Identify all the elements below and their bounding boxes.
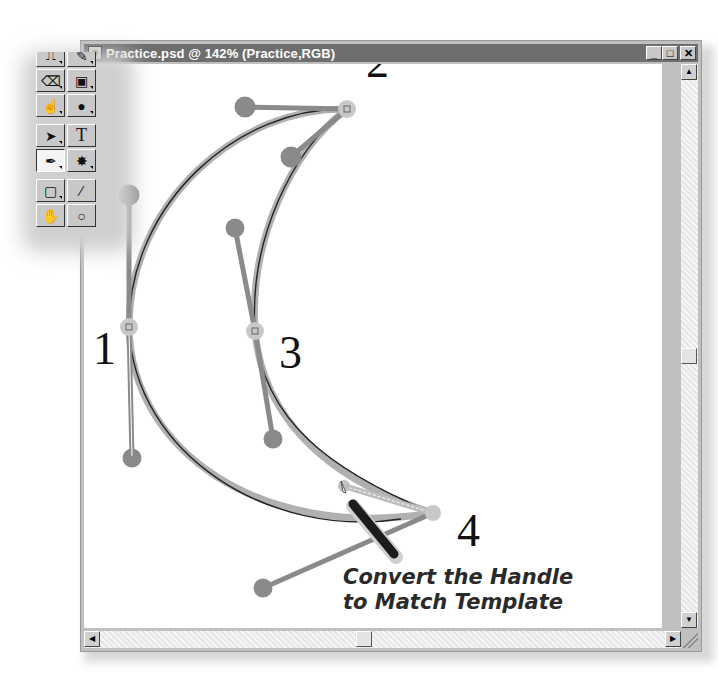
- instruction-caption: Convert the Handle to Match Template: [343, 565, 573, 615]
- caption-line-2: to Match Template: [343, 590, 573, 615]
- gradient-icon: ▣: [75, 73, 88, 89]
- arrow-icon: ➤: [45, 128, 57, 144]
- pen-tool[interactable]: ✒: [36, 149, 65, 172]
- minimize-button[interactable]: _: [646, 46, 662, 60]
- dodge-icon: ●: [77, 98, 85, 114]
- type-icon: T: [76, 125, 87, 146]
- shape-tool[interactable]: ✸: [67, 149, 96, 172]
- point-label-4: 4: [457, 508, 480, 554]
- eyedropper-icon: ⁄: [80, 183, 82, 199]
- template-curve-inner-top: [254, 109, 347, 331]
- gradient-tool[interactable]: ▣: [67, 69, 96, 92]
- scroll-left-button[interactable]: ◀: [84, 631, 100, 647]
- resize-grip[interactable]: [681, 631, 698, 648]
- vertical-scrollbar[interactable]: ▲ ▼: [681, 64, 698, 628]
- dodge-tool[interactable]: ●: [67, 94, 96, 117]
- type-tool[interactable]: T: [67, 124, 96, 147]
- scroll-down-button[interactable]: ▼: [681, 612, 697, 628]
- toolbox: ⎍ ✎ ⌫ ▣ ☝ ● ➤ T ✒ ✸ ▢ ⁄ ✋ ○: [32, 52, 102, 252]
- path-illustration: [84, 64, 662, 628]
- window-title: Practice.psd @ 142% (Practice,RGB): [106, 46, 335, 61]
- eraser-icon: ⌫: [41, 73, 61, 89]
- caption-line-1: Convert the Handle: [343, 565, 573, 590]
- hand-icon: ✋: [42, 208, 59, 224]
- eyedropper-tool[interactable]: ⁄: [67, 179, 96, 202]
- notes-icon: ▢: [44, 183, 57, 199]
- smudge-tool[interactable]: ☝: [36, 94, 65, 117]
- point-label-2: 2: [366, 64, 389, 85]
- zoom-icon: ○: [77, 208, 85, 224]
- maximize-button[interactable]: □: [662, 46, 678, 60]
- smudge-icon: ☝: [42, 98, 59, 114]
- path-selection-tool[interactable]: ➤: [36, 124, 65, 147]
- window-controls: _ □ ✕: [646, 46, 696, 60]
- horizontal-scroll-thumb[interactable]: [356, 631, 372, 647]
- scroll-right-button[interactable]: ▶: [665, 631, 681, 647]
- history-brush-icon: ✎: [76, 52, 88, 64]
- zoom-tool[interactable]: ○: [67, 204, 96, 227]
- point-label-1: 1: [93, 326, 116, 372]
- shape-icon: ✸: [76, 153, 88, 169]
- history-brush-tool[interactable]: ✎: [67, 52, 96, 67]
- eraser-tool[interactable]: ⌫: [36, 69, 65, 92]
- close-button[interactable]: ✕: [680, 46, 696, 60]
- vertical-scroll-thumb[interactable]: [681, 348, 697, 364]
- hand-tool[interactable]: ✋: [36, 204, 65, 227]
- anchor-points: [120, 100, 441, 521]
- document-window: Practice.psd @ 142% (Practice,RGB) _ □ ✕: [80, 40, 702, 652]
- stamp-tool[interactable]: ⎍: [36, 52, 65, 67]
- notes-tool[interactable]: ▢: [36, 179, 65, 202]
- stamp-icon: ⎍: [46, 52, 56, 64]
- title-bar[interactable]: Practice.psd @ 142% (Practice,RGB) _ □ ✕: [84, 44, 698, 62]
- scroll-up-button[interactable]: ▲: [681, 64, 697, 80]
- pen-icon: ✒: [45, 153, 57, 169]
- point-label-3: 3: [279, 330, 302, 376]
- horizontal-scrollbar[interactable]: ◀ ▶: [84, 631, 681, 648]
- document-canvas[interactable]: 1 2 3 4: [84, 64, 662, 628]
